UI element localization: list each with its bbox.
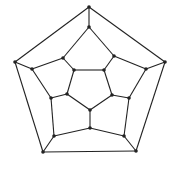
graph-edge bbox=[124, 136, 136, 151]
graph-edge bbox=[15, 62, 43, 152]
graph-edge bbox=[114, 56, 146, 69]
graph-edge bbox=[146, 62, 165, 69]
graph-edge bbox=[112, 95, 129, 98]
graph-edge bbox=[63, 58, 74, 70]
graph-edge bbox=[67, 94, 90, 110]
graph-edge bbox=[104, 70, 112, 95]
graph-node bbox=[144, 67, 148, 71]
graph-node bbox=[122, 134, 126, 138]
graph-node bbox=[87, 25, 91, 29]
graph-node bbox=[163, 60, 167, 64]
graph-edge bbox=[89, 7, 165, 62]
graph-edge bbox=[104, 56, 114, 70]
graph-node bbox=[88, 126, 92, 130]
graph-edges bbox=[15, 7, 165, 152]
graph-node bbox=[13, 60, 17, 64]
graph-edge bbox=[15, 7, 89, 62]
graph-node bbox=[87, 5, 91, 9]
graph-node bbox=[127, 96, 131, 100]
graph-node bbox=[112, 54, 116, 58]
graph-edge bbox=[129, 69, 146, 98]
graph-edge bbox=[43, 136, 54, 152]
graph-node bbox=[41, 150, 45, 154]
graph-edge bbox=[32, 69, 51, 98]
graph-edge bbox=[51, 98, 54, 136]
graph-node bbox=[65, 92, 69, 96]
graph-edge bbox=[136, 62, 165, 151]
dodecahedron-graph bbox=[0, 0, 178, 185]
graph-node bbox=[102, 68, 106, 72]
graph-node bbox=[110, 93, 114, 97]
graph-edge bbox=[90, 95, 112, 110]
graph-node bbox=[72, 68, 76, 72]
graph-edge bbox=[32, 58, 63, 69]
graph-edge bbox=[124, 98, 129, 136]
graph-edge bbox=[43, 151, 136, 152]
graph-edge bbox=[90, 128, 124, 136]
graph-edge bbox=[89, 27, 114, 56]
graph-node bbox=[52, 134, 56, 138]
graph-edge bbox=[51, 94, 67, 98]
graph-edge bbox=[63, 27, 89, 58]
graph-edge bbox=[15, 62, 32, 69]
graph-edge bbox=[67, 70, 74, 94]
graph-node bbox=[61, 56, 65, 60]
graph-node bbox=[134, 149, 138, 153]
graph-node bbox=[88, 108, 92, 112]
graph-node bbox=[49, 96, 53, 100]
graph-edge bbox=[54, 128, 90, 136]
graph-node bbox=[30, 67, 34, 71]
